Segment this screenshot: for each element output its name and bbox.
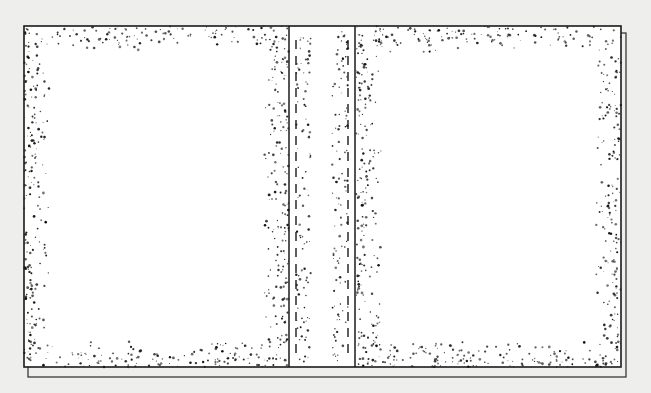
gutter-surface — [289, 26, 356, 367]
right-page-surface — [356, 26, 621, 367]
book-line-drawing — [0, 0, 651, 393]
left-page-surface — [24, 26, 289, 367]
figure-root: Open book line drawing Left page Right p… — [0, 0, 651, 393]
